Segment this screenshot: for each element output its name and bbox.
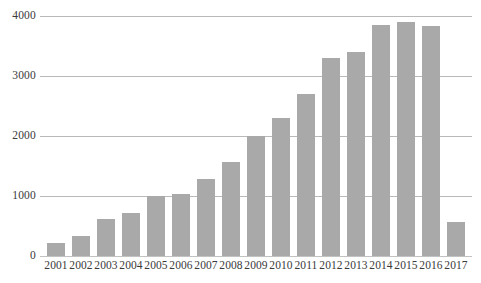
bar [122, 213, 140, 256]
gridline-0 [40, 256, 472, 257]
bar [47, 243, 65, 256]
bar [97, 219, 115, 256]
bar [372, 25, 390, 256]
bar [247, 136, 265, 256]
y-axis-tick-label: 1000 [0, 190, 36, 202]
bar [297, 94, 315, 256]
plot-area [40, 16, 472, 256]
bar [222, 162, 240, 256]
bar [397, 22, 415, 256]
bar [147, 196, 165, 256]
bar [422, 26, 440, 256]
y-axis-tick-label: 4000 [0, 10, 36, 22]
bar [347, 52, 365, 256]
x-axis: 2001200220032004200520062007200820092010… [47, 260, 472, 280]
bar-chart: 01000200030004000 2001200220032004200520… [0, 0, 481, 283]
y-axis-tick-label: 3000 [0, 70, 36, 82]
bar-series [47, 16, 472, 256]
bar [172, 194, 190, 256]
bar [197, 179, 215, 256]
y-axis-tick-label: 0 [0, 250, 36, 262]
bar [72, 236, 90, 256]
x-axis-tick-label: 2017 [440, 260, 472, 272]
bar [322, 58, 340, 256]
bar [272, 118, 290, 256]
y-axis-tick-label: 2000 [0, 130, 36, 142]
bar [447, 222, 465, 256]
